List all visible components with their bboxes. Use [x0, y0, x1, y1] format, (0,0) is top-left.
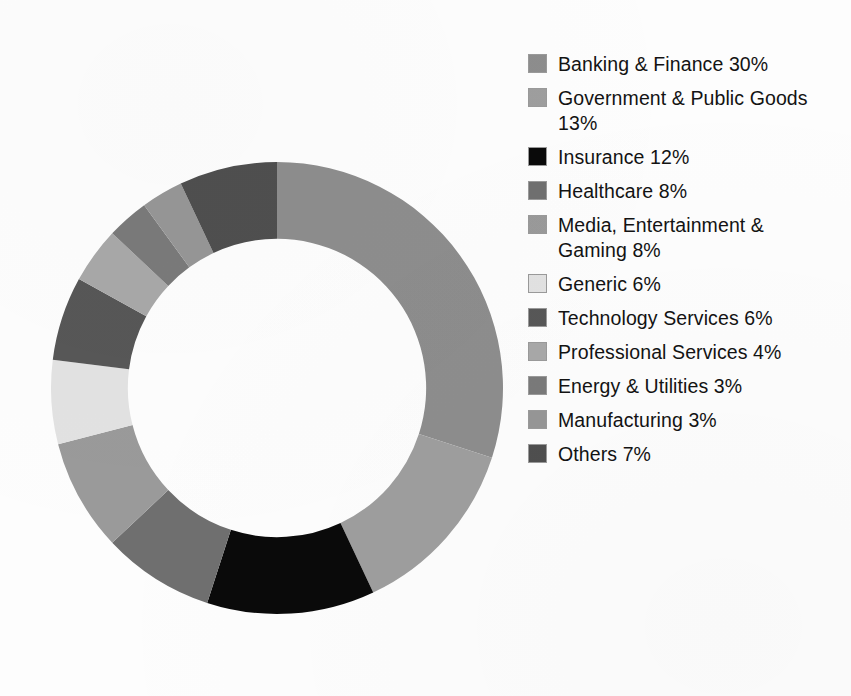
legend-item-technology-services[interactable]: Technology Services 6%: [528, 306, 838, 331]
donut-chart-svg: [50, 161, 504, 615]
legend-label-technology-services: Technology Services 6%: [558, 306, 773, 331]
legend-swatch-manufacturing: [528, 410, 547, 429]
donut-slice-banking-finance[interactable]: [277, 162, 503, 458]
donut-slice-group: [51, 162, 503, 614]
legend-label-generic: Generic 6%: [558, 272, 661, 297]
legend-item-banking-finance[interactable]: Banking & Finance 30%: [528, 52, 838, 77]
legend-item-energy-utilities[interactable]: Energy & Utilities 3%: [528, 374, 838, 399]
legend-swatch-generic: [528, 274, 547, 293]
donut-slice-government-public-goods[interactable]: [341, 434, 492, 592]
legend-item-others[interactable]: Others 7%: [528, 442, 838, 467]
legend-label-energy-utilities: Energy & Utilities 3%: [558, 374, 742, 399]
legend-item-professional-services[interactable]: Professional Services 4%: [528, 340, 838, 365]
legend-swatch-energy-utilities: [528, 376, 547, 395]
legend-item-manufacturing[interactable]: Manufacturing 3%: [528, 408, 838, 433]
legend-swatch-banking-finance: [528, 54, 547, 73]
legend-label-government-public-goods: Government & Public Goods 13%: [558, 86, 826, 136]
legend-swatch-insurance: [528, 147, 547, 166]
legend-swatch-healthcare: [528, 181, 547, 200]
legend-swatch-media-entertainment-gaming: [528, 215, 547, 234]
legend-label-manufacturing: Manufacturing 3%: [558, 408, 717, 433]
legend-swatch-technology-services: [528, 308, 547, 327]
legend-swatch-others: [528, 444, 547, 463]
legend-swatch-government-public-goods: [528, 88, 547, 107]
legend-label-insurance: Insurance 12%: [558, 145, 689, 170]
legend-item-government-public-goods[interactable]: Government & Public Goods 13%: [528, 86, 838, 136]
legend-item-insurance[interactable]: Insurance 12%: [528, 145, 838, 170]
legend-label-banking-finance: Banking & Finance 30%: [558, 52, 768, 77]
legend-label-professional-services: Professional Services 4%: [558, 340, 782, 365]
legend-item-healthcare[interactable]: Healthcare 8%: [528, 179, 838, 204]
donut-chart-figure: Banking & Finance 30%Government & Public…: [0, 0, 851, 696]
legend-label-media-entertainment-gaming: Media, Entertainment & Gaming 8%: [558, 213, 826, 263]
legend-label-others: Others 7%: [558, 442, 651, 467]
chart-legend: Banking & Finance 30%Government & Public…: [528, 52, 838, 476]
legend-label-healthcare: Healthcare 8%: [558, 179, 687, 204]
legend-item-generic[interactable]: Generic 6%: [528, 272, 838, 297]
legend-swatch-professional-services: [528, 342, 547, 361]
donut-chart-plot-area: [50, 161, 504, 615]
legend-item-media-entertainment-gaming[interactable]: Media, Entertainment & Gaming 8%: [528, 213, 838, 263]
